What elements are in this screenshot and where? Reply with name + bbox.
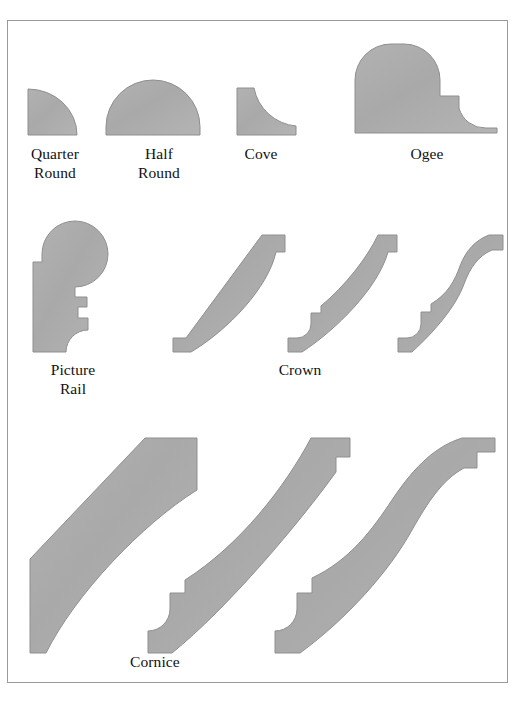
crown-profile-2 (288, 235, 397, 352)
caption-cornice: Cornice (130, 652, 250, 671)
quarter-round-profile (28, 89, 77, 135)
molding-profiles-figure (0, 0, 519, 703)
caption-crown: Crown (245, 360, 355, 379)
half-round-profile (106, 80, 200, 135)
caption-cove: Cove (216, 144, 306, 163)
caption-picture-rail: Picture Rail (18, 360, 128, 398)
crown-profile-1 (173, 235, 285, 352)
caption-half-round: Half Round (112, 144, 206, 182)
caption-quarter-round: Quarter Round (8, 144, 102, 182)
caption-ogee: Ogee (372, 144, 482, 163)
illustration-page: Quarter Round Half Round Cove Ogee Pictu… (0, 0, 519, 703)
ogee-profile (355, 44, 497, 133)
crown-profile-3 (398, 235, 503, 352)
cove-profile (237, 88, 296, 135)
picture-rail-profile (33, 221, 108, 352)
